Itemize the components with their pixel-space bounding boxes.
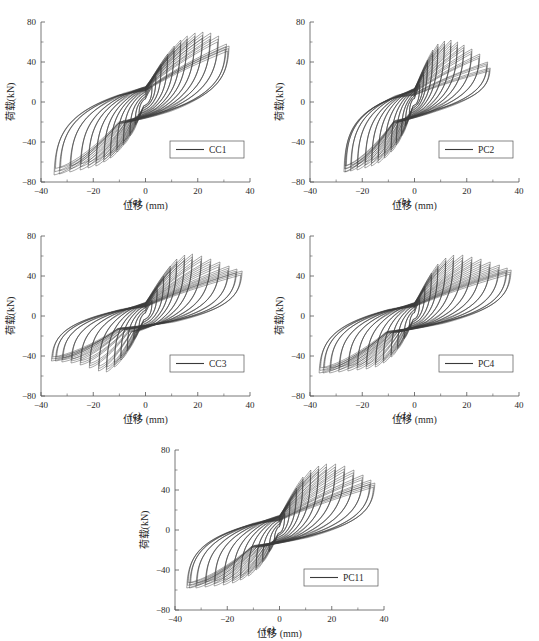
- x-tick-label: −20: [355, 400, 370, 410]
- y-tick-label: −40: [22, 351, 37, 361]
- hysteresis-loop: [52, 273, 241, 359]
- x-tick-label: 40: [246, 400, 256, 410]
- plot-area-d: −80−4004080−40−2002040位移 (mm)荷载(kN)PC4: [269, 214, 539, 429]
- y-tick-label: −40: [291, 351, 306, 361]
- plot-area-a: −80−4004080−40−2002040位移 (mm)荷载(kN)CC1: [0, 0, 270, 215]
- y-tick-label: 0: [166, 525, 171, 535]
- y-axis-title: 荷载(kN): [274, 83, 286, 122]
- x-tick-label: 20: [193, 400, 203, 410]
- y-tick-label: 0: [301, 97, 306, 107]
- panel-caption-e: (e): [134, 624, 404, 635]
- y-tick-label: 0: [32, 97, 37, 107]
- panel-caption-c: (c): [0, 410, 270, 421]
- panel-caption-d: (d ): [269, 410, 539, 421]
- hysteresis-loop: [53, 275, 241, 357]
- x-tick-label: −20: [86, 400, 101, 410]
- x-tick-label: −20: [86, 186, 101, 196]
- legend-label: CC1: [209, 145, 227, 155]
- x-tick-label: 0: [412, 400, 417, 410]
- x-tick-label: −40: [303, 400, 318, 410]
- x-tick-label: 20: [462, 400, 472, 410]
- y-tick-label: −40: [22, 137, 37, 147]
- hysteresis-curves: [51, 254, 242, 372]
- y-tick-label: 40: [161, 485, 171, 495]
- y-axis-title: 荷载(kN): [5, 297, 17, 336]
- y-axis-title: 荷载(kN): [5, 83, 17, 122]
- x-tick-label: −20: [355, 186, 370, 196]
- legend: CC3: [170, 355, 244, 372]
- y-tick-label: 40: [296, 271, 306, 281]
- hysteresis-loop: [224, 467, 335, 583]
- y-tick-label: 80: [27, 17, 37, 27]
- plot-area-b: −80−4004080−40−2002040位移 (mm)荷载(kN)PC2: [269, 0, 539, 215]
- hysteresis-figure: −80−4004080−40−2002040位移 (mm)荷载(kN)CC1 (…: [0, 0, 539, 641]
- x-tick-label: −40: [168, 614, 183, 624]
- x-tick-label: 0: [277, 614, 282, 624]
- legend-label: PC11: [343, 573, 364, 583]
- y-tick-label: −40: [291, 137, 306, 147]
- x-tick-label: 0: [412, 186, 417, 196]
- x-tick-label: 40: [380, 614, 390, 624]
- x-tick-label: 40: [515, 400, 525, 410]
- y-tick-label: 0: [301, 311, 306, 321]
- chart-panel-b: −80−4004080−40−2002040位移 (mm)荷载(kN)PC2 (…: [269, 0, 539, 215]
- x-tick-label: 20: [327, 614, 337, 624]
- x-tick-label: 0: [143, 186, 148, 196]
- x-tick-label: −40: [34, 400, 49, 410]
- hysteresis-loop: [106, 255, 184, 372]
- legend: PC11: [304, 569, 378, 586]
- legend: PC2: [439, 141, 513, 158]
- plot-area-c: −80−4004080−40−2002040位移 (mm)荷载(kN)CC3: [0, 214, 270, 429]
- y-tick-label: 40: [27, 57, 37, 67]
- legend-label: PC2: [478, 145, 495, 155]
- y-tick-label: 80: [27, 231, 37, 241]
- y-axis-title: 荷载(kN): [139, 511, 151, 550]
- legend-label: CC3: [209, 359, 227, 369]
- panel-caption-a: (a): [0, 196, 270, 207]
- panel-caption-b: (b): [269, 196, 539, 207]
- hysteresis-loop: [51, 271, 242, 361]
- hysteresis-loop: [191, 485, 370, 583]
- x-tick-label: −20: [220, 614, 235, 624]
- x-tick-label: −40: [34, 186, 49, 196]
- y-tick-label: 80: [161, 445, 171, 455]
- legend: CC1: [170, 141, 244, 158]
- legend: PC4: [439, 355, 513, 372]
- chart-panel-a: −80−4004080−40−2002040位移 (mm)荷载(kN)CC1 (…: [0, 0, 270, 215]
- x-tick-label: −40: [303, 186, 318, 196]
- y-tick-label: 40: [27, 271, 37, 281]
- x-tick-label: 0: [143, 400, 148, 410]
- legend-label: PC4: [478, 359, 495, 369]
- y-tick-label: 80: [296, 231, 306, 241]
- y-tick-label: 80: [296, 17, 306, 27]
- chart-panel-e: −80−4004080−40−2002040位移 (mm)荷载(kN)PC11 …: [134, 428, 404, 641]
- chart-panel-d: −80−4004080−40−2002040位移 (mm)荷载(kN)PC4 (…: [269, 214, 539, 429]
- x-tick-label: 20: [462, 186, 472, 196]
- x-tick-label: 20: [193, 186, 203, 196]
- y-tick-label: 0: [32, 311, 37, 321]
- plot-area-e: −80−4004080−40−2002040位移 (mm)荷载(kN)PC11: [134, 428, 404, 641]
- chart-panel-c: −80−4004080−40−2002040位移 (mm)荷载(kN)CC3 (…: [0, 214, 270, 429]
- x-tick-label: 40: [515, 186, 525, 196]
- y-tick-label: 40: [296, 57, 306, 67]
- x-tick-label: 40: [246, 186, 256, 196]
- y-axis-title: 荷载(kN): [274, 297, 286, 336]
- y-tick-label: −40: [156, 565, 171, 575]
